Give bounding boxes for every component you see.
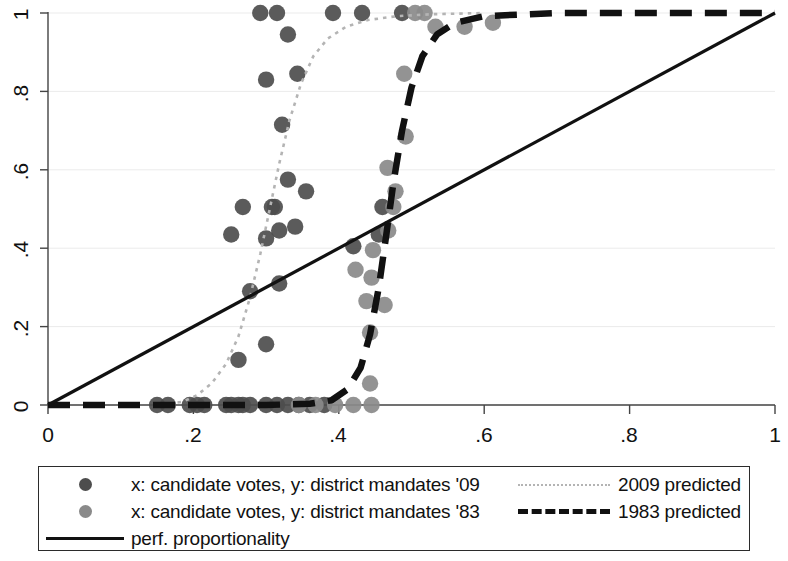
legend-right-2009: 2009 predicted [502,472,741,498]
legend-label-scatter-1983: x: candidate votes, y: district mandates… [131,502,480,521]
series-layer [48,5,775,413]
dotted-line-icon [518,484,610,486]
legend-row-perf: perf. proportionality [39,525,749,552]
scatter-marker-1983-icon [79,505,92,518]
x-tick-3: .6 [464,424,504,445]
x-tick-0: 0 [28,424,68,445]
x-tick-1: .2 [173,424,213,445]
legend-label-pred-2009: 2009 predicted [618,475,741,494]
chart-legend: x: candidate votes, y: district mandates… [38,466,750,551]
y-tick-4: .8 [6,83,36,104]
dashed-line-icon [518,509,610,514]
x-tick-2: .4 [318,424,358,445]
plot-area [0,0,788,455]
chart-page: 0 .2 .4 .6 .8 1 0 .2 .4 .6 .8 1 x: candi… [0,0,788,561]
scatter-series [149,5,410,413]
legend-row-1983: x: candidate votes, y: district mandates… [39,498,749,525]
scatter-series [291,5,502,413]
y-tick-5: 1 [6,4,36,25]
legend-label-perf: perf. proportionality [131,529,289,548]
legend-key-pred-2009-line [510,472,618,498]
y-tick-1: .2 [6,318,36,339]
legend-label-pred-1983: 1983 predicted [618,502,741,521]
legend-label-scatter-2009: x: candidate votes, y: district mandates… [131,475,480,494]
legend-key-perf-line [39,526,131,552]
y-tick-0: 0 [6,396,36,417]
legend-key-scatter-2009 [39,472,131,498]
legend-key-scatter-1983 [39,499,131,525]
plot-svg [0,0,788,455]
legend-row-2009: x: candidate votes, y: district mandates… [39,471,749,498]
legend-key-pred-1983-line [510,499,618,525]
legend-right-1983: 1983 predicted [502,499,741,525]
x-tick-5: 1 [755,424,788,445]
scatter-marker-2009-icon [79,478,92,491]
y-tick-2: .4 [6,239,36,260]
solid-line-icon [46,537,124,540]
line-series [161,13,485,405]
x-tick-4: .8 [609,424,649,445]
y-tick-3: .6 [6,161,36,182]
